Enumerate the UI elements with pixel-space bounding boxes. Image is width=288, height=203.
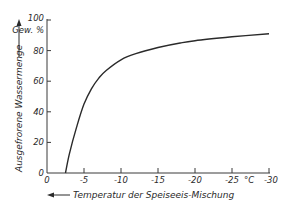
y-unit-label: Gew. %: [12, 25, 44, 35]
x-unit-label: °C: [244, 175, 254, 185]
x-axis-title: Temperatur der Speiseeis-Mischung: [73, 190, 234, 200]
x-tick-label: -30: [264, 175, 278, 185]
y-tick-label: 20: [33, 137, 44, 147]
x-tick-label: -10: [114, 175, 128, 185]
y-tick-label: 40: [33, 107, 44, 117]
arrow-up-icon: [17, 19, 22, 26]
x-tick-label: -15: [151, 175, 165, 185]
x-tick-label: -25: [225, 175, 239, 185]
y-tick-label: 60: [33, 76, 44, 86]
y-tick-label: 80: [33, 46, 44, 56]
freezing-curve-chart: 020406080100 0-5-10-15-20-25-30 Gew. % °…: [0, 0, 288, 203]
y-ticks: 020406080100: [28, 13, 51, 178]
y-axis-title: Ausgefrorene Wassermenge: [14, 44, 24, 173]
y-tick-label: 0: [39, 168, 44, 178]
freezing-curve-line: [66, 34, 270, 173]
x-tick-label: -20: [188, 175, 202, 185]
y-axis-title-group: Ausgefrorene Wassermenge: [14, 19, 24, 173]
y-axis: [47, 19, 51, 173]
x-axis-title-group: Temperatur der Speiseeis-Mischung: [47, 190, 234, 200]
x-ticks: 0-5-10-15-20-25-30: [44, 168, 278, 185]
x-tick-label: 0: [44, 175, 49, 185]
x-tick-label: -5: [80, 175, 88, 185]
y-tick-label: 100: [28, 13, 44, 23]
arrow-left-icon: [47, 193, 54, 198]
